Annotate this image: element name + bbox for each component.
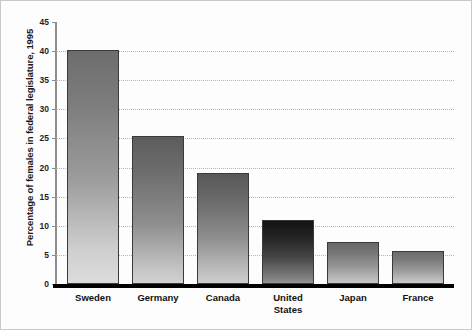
y-tick-label-15: 15 <box>25 192 49 202</box>
bar-france[interactable] <box>392 251 444 284</box>
bar-fill-united-states <box>262 220 314 284</box>
y-tick-label-45: 45 <box>25 17 49 27</box>
bar-germany[interactable] <box>132 136 184 284</box>
y-tick-label-10: 10 <box>25 221 49 231</box>
bar-fill-canada <box>197 173 249 284</box>
y-tick-label-35: 35 <box>25 75 49 85</box>
bar-fill-france <box>392 251 444 284</box>
y-tick-label-0: 0 <box>25 279 49 289</box>
bar-fill-germany <box>132 136 184 284</box>
tickmark-30 <box>52 109 56 110</box>
plot-area: 0 5 10 15 20 25 30 35 40 45 Sweden G <box>56 22 456 284</box>
x-axis-baseline <box>53 284 454 288</box>
x-label-france: France <box>376 292 460 304</box>
bar-sweden[interactable] <box>67 50 119 284</box>
bar-canada[interactable] <box>197 173 249 284</box>
y-tick-label-40: 40 <box>25 46 49 56</box>
bar-japan[interactable] <box>327 242 379 284</box>
tickmark-45 <box>52 22 56 23</box>
tickmark-10 <box>52 226 56 227</box>
bar-fill-japan <box>327 242 379 284</box>
tickmark-20 <box>52 168 56 169</box>
chart-canvas: Percentage of females in federal legisla… <box>0 0 472 330</box>
tickmark-35 <box>52 80 56 81</box>
y-tick-label-25: 25 <box>25 133 49 143</box>
y-axis-line <box>55 22 57 285</box>
bar-fill-sweden <box>67 50 119 284</box>
tickmark-25 <box>52 138 56 139</box>
tickmark-15 <box>52 197 56 198</box>
y-tick-label-30: 30 <box>25 104 49 114</box>
bar-united-states[interactable] <box>262 220 314 284</box>
x-label-united-states-line2: States <box>246 304 330 316</box>
tickmark-40 <box>52 51 56 52</box>
tickmark-5 <box>52 255 56 256</box>
y-tick-label-20: 20 <box>25 163 49 173</box>
y-tick-label-5: 5 <box>25 250 49 260</box>
